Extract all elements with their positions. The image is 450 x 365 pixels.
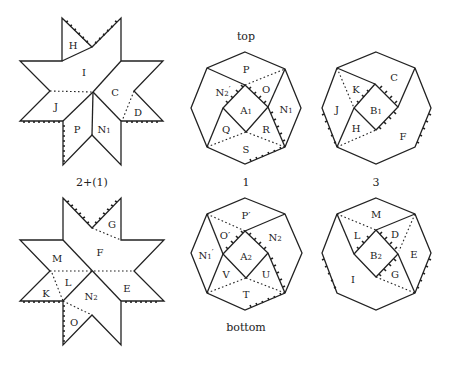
region-label: N1 (279, 104, 292, 116)
star-top: H I J C D P N1 (20, 18, 163, 165)
region-label: G (391, 269, 399, 280)
region-label: N1′ (198, 247, 213, 262)
region-label: G (108, 219, 116, 230)
region-label: F (400, 131, 407, 142)
caption-3: 3 (373, 176, 380, 189)
region-label: H (69, 40, 78, 51)
region-label: M (52, 253, 62, 264)
region-label: T (243, 289, 250, 300)
region-label: U (262, 269, 270, 280)
caption-bottom: bottom (226, 321, 266, 334)
valley-fold-ticks (24, 21, 157, 161)
caption-star-top: 2+(1) (76, 176, 108, 189)
region-label: N2 (84, 291, 97, 303)
region-label: N2 (268, 232, 281, 244)
star-bottom: G F M L K E N2 O (20, 198, 164, 345)
region-label: S (243, 144, 250, 155)
region-label: C (111, 87, 119, 98)
region-label: I (82, 67, 86, 78)
region-label: P′ (242, 210, 252, 221)
region-label: L (354, 230, 361, 241)
region-label: M (371, 209, 381, 220)
region-label: C (390, 72, 398, 83)
region-label: P (243, 64, 250, 75)
octagon-bottom-right: M L D B2 E I G (322, 198, 431, 310)
region-label: D (134, 107, 142, 118)
region-label: L (65, 277, 72, 288)
region-label: O′ (220, 230, 231, 241)
region-label: P (74, 124, 81, 135)
region-label: J (53, 101, 58, 112)
caption-top: top (237, 30, 255, 43)
region-label: H (352, 123, 361, 134)
region-label: O (262, 84, 270, 95)
region-label: K (352, 84, 360, 95)
region-label: Q (222, 124, 230, 135)
region-label: D (391, 229, 399, 240)
region-label: B2 (370, 250, 382, 262)
octagon-bottom-mid: P′ O′ N2 N1′ A2 V U T (191, 198, 302, 310)
origami-crease-diagram: H I J C D P N1 2+(1) G F M L K E N2 O to… (0, 0, 450, 365)
region-label: E (123, 283, 130, 294)
region-label: R (262, 124, 270, 135)
region-label: E (410, 249, 417, 260)
region-label: N2′ (215, 84, 230, 99)
region-label: F (97, 247, 104, 258)
octagon-top-mid: P N2′ O A1 N1 Q R S (191, 52, 301, 164)
region-label: V (221, 269, 230, 280)
region-label: B1 (370, 105, 382, 117)
region-label: O (70, 317, 78, 328)
region-label: I (351, 274, 355, 285)
region-label: K (42, 288, 50, 299)
region-label: N1 (97, 124, 110, 136)
region-label: A2 (239, 251, 252, 263)
region-label: J (334, 104, 339, 115)
region-label: A1 (239, 105, 252, 117)
octagon-top-right: C K J B1 H F (322, 52, 431, 164)
caption-1: 1 (243, 176, 250, 189)
